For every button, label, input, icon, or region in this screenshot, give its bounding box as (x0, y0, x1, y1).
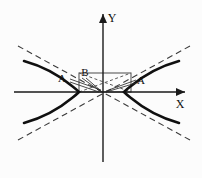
figure-canvas: A B A Y X (0, 0, 202, 178)
asymptote-negative-slope-line (18, 46, 190, 140)
label-a-left: A (58, 72, 66, 84)
label-b-top: B (81, 66, 88, 78)
y-axis-arrowhead (99, 14, 107, 23)
hyperbola-figure: A B A Y X (0, 0, 202, 178)
x-axis-label: X (176, 97, 185, 111)
x-axis-arrowhead (176, 88, 185, 96)
y-axis-label: Y (108, 11, 117, 25)
asymptote-positive-slope-line (18, 46, 190, 140)
asymptotes-group (18, 46, 190, 140)
axes-group (14, 14, 185, 162)
label-a-right: A (137, 74, 145, 86)
